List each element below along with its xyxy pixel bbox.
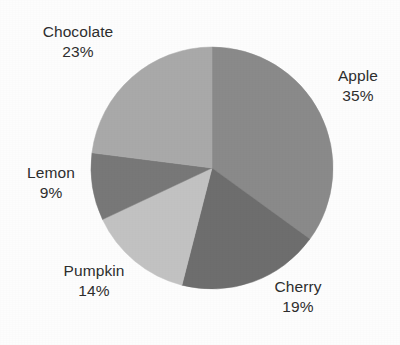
pie-label-lemon-name: Lemon — [8, 163, 94, 183]
pie-label-chocolate: Chocolate 23% — [16, 22, 140, 62]
pie-label-pumpkin-percent: 14% — [42, 281, 146, 301]
pie-label-lemon: Lemon 9% — [8, 163, 94, 203]
pie-slice-chocolate[interactable] — [92, 47, 212, 168]
pie-label-chocolate-name: Chocolate — [16, 22, 140, 42]
pie-label-pumpkin-name: Pumpkin — [42, 261, 146, 281]
pie-label-lemon-percent: 9% — [8, 183, 94, 203]
pie-slices — [91, 47, 333, 289]
pie-label-cherry: Cherry 19% — [254, 277, 342, 317]
pie-label-cherry-name: Cherry — [254, 277, 342, 297]
pie-label-apple: Apple 35% — [322, 66, 394, 106]
pie-chart-figure: Chocolate 23% Apple 35% Lemon 9% Pumpkin… — [0, 0, 400, 345]
pie-label-pumpkin: Pumpkin 14% — [42, 261, 146, 301]
pie-label-chocolate-percent: 23% — [16, 42, 140, 62]
pie-label-apple-name: Apple — [322, 66, 394, 86]
pie-label-apple-percent: 35% — [322, 86, 394, 106]
pie-label-cherry-percent: 19% — [254, 297, 342, 317]
